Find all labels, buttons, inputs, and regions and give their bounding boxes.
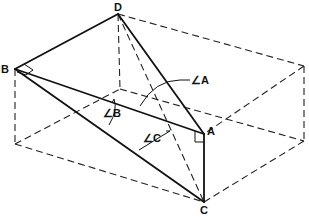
vertex-label-A: A xyxy=(207,125,215,137)
angle-label-B: ∠B xyxy=(103,107,121,119)
box-edge xyxy=(204,66,304,134)
box-edge xyxy=(15,144,204,202)
diagram-canvas: D B A C ∠A ∠B ∠C xyxy=(0,0,309,217)
angle-label-A: ∠A xyxy=(191,74,209,86)
vertex-label-D: D xyxy=(114,1,122,13)
vertex-label-C: C xyxy=(200,204,208,216)
angle-label-C: ∠C xyxy=(143,132,161,144)
vertex-label-B: B xyxy=(1,63,9,75)
box-hidden-edges xyxy=(15,14,304,202)
edge-B-C xyxy=(15,69,204,202)
box-edge xyxy=(118,14,304,66)
edge-B-D xyxy=(15,14,118,69)
box-edge xyxy=(118,14,120,89)
box-edge xyxy=(204,141,304,202)
